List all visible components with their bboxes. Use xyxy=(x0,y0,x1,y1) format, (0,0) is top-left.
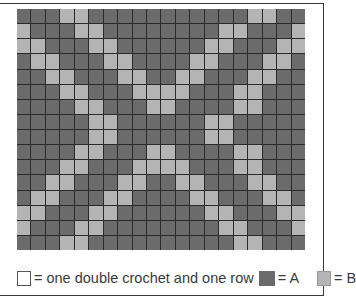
chart-cell xyxy=(17,206,30,220)
chart-cell xyxy=(31,39,44,53)
chart-cell xyxy=(292,145,305,159)
chart-cell xyxy=(277,100,290,114)
chart-cell xyxy=(277,145,290,159)
chart-cell xyxy=(75,9,88,23)
chart-cell xyxy=(89,70,102,84)
chart-cell xyxy=(89,100,102,114)
chart-cell xyxy=(147,145,160,159)
chart-cell xyxy=(190,130,203,144)
chart-cell xyxy=(104,130,117,144)
chart-cell xyxy=(104,160,117,174)
chart-cell xyxy=(219,145,232,159)
chart-cell xyxy=(31,206,44,220)
chart-cell xyxy=(292,236,305,250)
chart-cell xyxy=(205,175,218,189)
chart-cell xyxy=(205,39,218,53)
chart-cell xyxy=(46,236,59,250)
chart-cell xyxy=(118,191,131,205)
chart-cell xyxy=(31,236,44,250)
chart-cell xyxy=(17,221,30,235)
chart-cell xyxy=(205,24,218,38)
chart-cell xyxy=(277,54,290,68)
chart-cell xyxy=(205,206,218,220)
chart-cell xyxy=(46,70,59,84)
legend: = one double crochet and one row = A = B xyxy=(17,269,356,287)
chart-cell xyxy=(234,70,247,84)
chart-cell xyxy=(190,206,203,220)
chart-cell xyxy=(118,9,131,23)
chart-cell xyxy=(118,175,131,189)
chart-cell xyxy=(133,206,146,220)
chart-cell xyxy=(46,39,59,53)
chart-cell xyxy=(277,70,290,84)
chart-cell xyxy=(104,39,117,53)
chart-cell xyxy=(46,160,59,174)
chart-cell xyxy=(234,175,247,189)
chart-cell xyxy=(118,100,131,114)
chart-cell xyxy=(248,24,261,38)
chart-cell xyxy=(176,115,189,129)
chart-cell xyxy=(176,236,189,250)
chart-cell xyxy=(219,100,232,114)
chart-cell xyxy=(190,70,203,84)
chart-cell xyxy=(292,175,305,189)
chart-cell xyxy=(277,160,290,174)
chart-cell xyxy=(292,100,305,114)
chart-cell xyxy=(248,191,261,205)
chart-cell xyxy=(118,85,131,99)
chart-cell xyxy=(89,206,102,220)
chart-cell xyxy=(292,54,305,68)
chart-cell xyxy=(176,145,189,159)
chart-cell xyxy=(277,175,290,189)
chart-cell xyxy=(89,130,102,144)
chart-cell xyxy=(161,175,174,189)
chart-cell xyxy=(277,9,290,23)
chart-cell xyxy=(17,24,30,38)
chart-cell xyxy=(60,175,73,189)
chart-cell xyxy=(89,160,102,174)
chart-cell xyxy=(263,130,276,144)
chart-cell xyxy=(219,130,232,144)
chart-cell xyxy=(248,160,261,174)
chart-cell xyxy=(75,175,88,189)
chart-cell xyxy=(46,206,59,220)
chart-cell xyxy=(234,191,247,205)
chart-cell xyxy=(60,100,73,114)
chart-cell xyxy=(234,145,247,159)
chart-cell xyxy=(133,39,146,53)
chart-cell xyxy=(161,85,174,99)
legend-empty-label: = one double crochet and one row xyxy=(34,270,254,286)
chart-cell xyxy=(17,145,30,159)
chart-cell xyxy=(75,100,88,114)
chart-cell xyxy=(17,115,30,129)
chart-cell xyxy=(89,9,102,23)
chart-cell xyxy=(219,70,232,84)
chart-cell xyxy=(89,236,102,250)
chart-cell xyxy=(161,9,174,23)
chart-cell xyxy=(176,9,189,23)
chart-cell xyxy=(75,236,88,250)
chart-cell xyxy=(277,221,290,235)
chart-cell xyxy=(17,191,30,205)
chart-cell xyxy=(190,115,203,129)
chart-cell xyxy=(75,39,88,53)
chart-cell xyxy=(17,85,30,99)
chart-cell xyxy=(176,54,189,68)
chart-cell xyxy=(248,221,261,235)
chart-cell xyxy=(17,175,30,189)
chart-cell xyxy=(17,236,30,250)
chart-cell xyxy=(46,175,59,189)
chart-cell xyxy=(292,221,305,235)
chart-cell xyxy=(277,115,290,129)
chart-cell xyxy=(248,236,261,250)
chart-cell xyxy=(248,54,261,68)
chart-cell xyxy=(133,85,146,99)
chart-cell xyxy=(118,54,131,68)
chart-cell xyxy=(219,191,232,205)
color-a-swatch xyxy=(259,271,275,286)
chart-cell xyxy=(263,236,276,250)
chart-cell xyxy=(147,24,160,38)
chart-cell xyxy=(190,54,203,68)
chart-cell xyxy=(89,221,102,235)
chart-cell xyxy=(118,39,131,53)
